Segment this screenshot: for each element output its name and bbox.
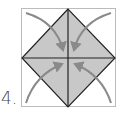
fold-diagram bbox=[0, 0, 122, 117]
